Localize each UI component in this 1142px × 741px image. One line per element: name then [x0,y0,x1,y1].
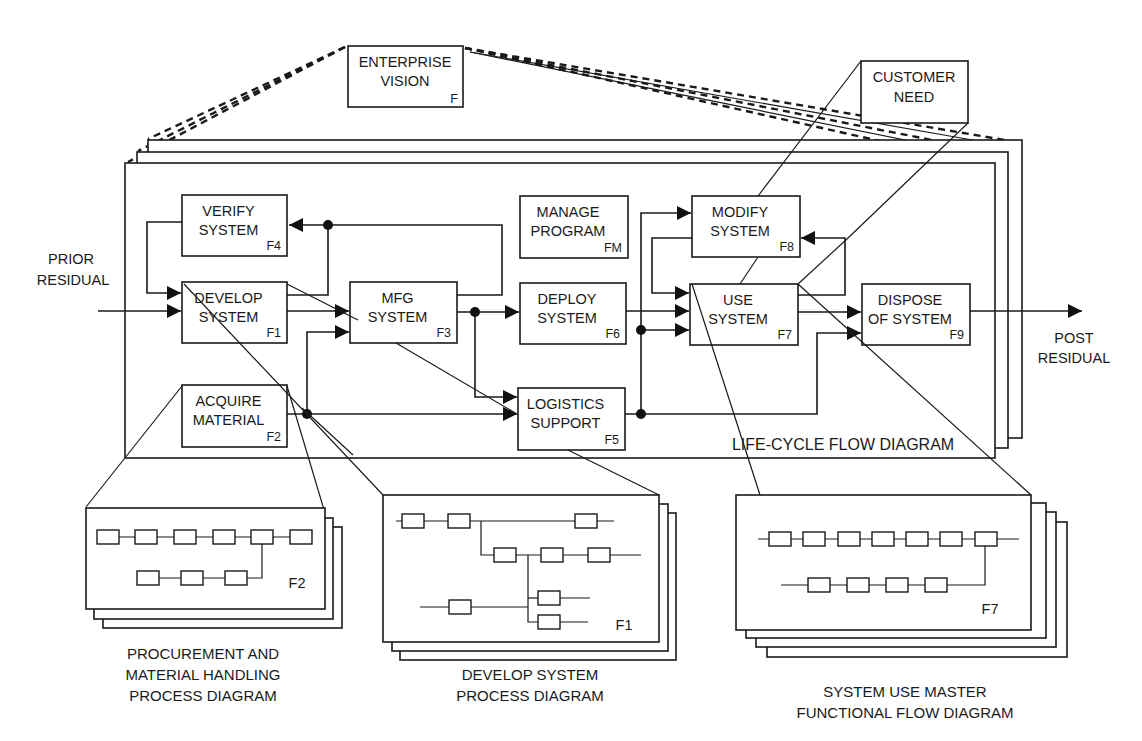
mini-function-block [975,532,997,546]
customer-need-line1: CUSTOMER [873,69,956,85]
system-use-id: F7 [982,601,999,617]
mini-function-block [449,600,471,614]
system-use-caption: SYSTEM USE MASTER FUNCTIONAL FLOW DIAGRA… [797,683,1014,721]
mini-function-block [251,530,273,544]
post-residual-label-line1: POST [1054,330,1094,346]
function-id: F9 [949,328,964,342]
customer-need-box[interactable]: CUSTOMER NEED [861,61,968,123]
function-label-line1: VERIFY [202,203,255,219]
enterprise-vision-line2: VISION [380,73,429,89]
function-id: F5 [604,433,619,447]
function-box-use[interactable]: USESYSTEMF7 [690,284,798,345]
function-box-mfg[interactable]: MFGSYSTEMF3 [350,282,457,343]
mini-function-block [137,571,159,585]
life-cycle-diagram: ENTERPRISE VISION F CUSTOMER NEED [0,0,1142,741]
junction-dot [470,307,480,317]
function-box-acquire[interactable]: ACQUIREMATERIALF2 [182,385,287,447]
mini-function-block [448,514,470,528]
junction-dot [636,325,646,335]
function-id: F2 [266,430,281,444]
develop-sub-id: F1 [616,617,633,633]
function-label-line1: ACQUIRE [195,393,261,409]
procurement-id: F2 [289,575,306,591]
function-label-line2: SYSTEM [368,309,428,325]
function-id: FM [604,241,622,255]
function-id: F8 [779,240,794,254]
function-label-line1: MANAGE [537,204,600,220]
mini-function-block [538,591,560,605]
mini-function-block [925,578,947,592]
mini-function-block [135,530,157,544]
function-box-logistics[interactable]: LOGISTICSSUPPORTF5 [518,388,625,450]
mini-function-block [174,530,196,544]
function-box-dispose[interactable]: DISPOSEOF SYSTEMF9 [862,284,970,345]
mini-function-block [940,532,962,546]
system-use-subdiagram[interactable]: F7 [736,495,1067,657]
function-label-line2: OF SYSTEM [868,311,952,327]
mini-function-block [808,578,830,592]
mini-function-block [181,571,203,585]
function-label-line1: MFG [381,290,413,306]
enterprise-vision-box[interactable]: ENTERPRISE VISION F [348,46,463,107]
procurement-caption: PROCUREMENT AND MATERIAL HANDLING PROCES… [125,645,280,704]
function-label-line2: SUPPORT [531,415,601,431]
caption-line: PROCESS DIAGRAM [456,687,604,704]
function-id: F6 [605,327,620,341]
function-label-line1: DISPOSE [878,292,943,308]
post-residual-label-line2: RESIDUAL [1038,350,1111,366]
function-label-line2: SYSTEM [199,222,259,238]
mini-function-block [494,548,516,562]
mini-function-block [886,578,908,592]
function-box-manage[interactable]: MANAGEPROGRAMFM [520,196,628,258]
mini-function-block [769,532,791,546]
caption-line: MATERIAL HANDLING [125,666,280,683]
function-label-line2: SYSTEM [199,309,259,325]
function-id: F7 [777,328,792,342]
function-label-line1: DEPLOY [538,291,597,307]
function-box-modify[interactable]: MODIFYSYSTEMF8 [692,196,800,257]
function-box-deploy[interactable]: DEPLOYSYSTEMF6 [520,283,626,344]
procurement-subdiagram[interactable]: F2 [86,508,342,628]
mini-function-block [402,514,424,528]
junction-dot [636,409,646,419]
function-label-line2: SYSTEM [708,311,768,327]
prior-residual-label-line2: RESIDUAL [37,272,110,288]
function-label-line1: MODIFY [712,204,769,220]
caption-line: PROCUREMENT AND [127,645,279,662]
enterprise-vision-id: F [450,92,458,106]
mini-function-block [225,571,247,585]
function-label-line1: LOGISTICS [527,396,604,412]
function-id: F1 [266,326,281,340]
mini-function-block [575,514,597,528]
mini-function-block [588,548,610,562]
function-label-line1: DEVELOP [194,290,263,306]
junction-dot [323,220,333,230]
mini-function-block [847,578,869,592]
function-label-line2: SYSTEM [710,223,770,239]
function-id: F3 [436,326,451,340]
function-label-line2: MATERIAL [193,412,264,428]
mini-function-block [541,548,563,562]
customer-need-line2: NEED [894,89,934,105]
develop-caption: DEVELOP SYSTEM PROCESS DIAGRAM [456,666,604,704]
life-cycle-flow-diagram-label: LIFE-CYCLE FLOW DIAGRAM [732,436,954,453]
mini-function-block [906,532,928,546]
caption-line: PROCESS DIAGRAM [129,687,277,704]
function-label-line2: SYSTEM [537,310,597,326]
function-box-verify[interactable]: VERIFYSYSTEMF4 [182,195,287,256]
mini-function-block [872,532,894,546]
function-box-develop[interactable]: DEVELOPSYSTEMF1 [182,282,287,343]
caption-line: SYSTEM USE MASTER [823,683,987,700]
function-id: F4 [266,239,281,253]
mini-function-block [213,530,235,544]
mini-function-block [290,530,312,544]
mini-function-block [803,532,825,546]
caption-line: FUNCTIONAL FLOW DIAGRAM [797,704,1014,721]
enterprise-vision-line1: ENTERPRISE [359,54,452,70]
develop-subdiagram[interactable]: F1 [383,495,676,660]
mini-function-block [838,532,860,546]
prior-residual-label-line1: PRIOR [48,251,94,267]
function-label-line1: USE [723,292,753,308]
caption-line: DEVELOP SYSTEM [462,666,598,683]
mini-function-block [97,530,119,544]
